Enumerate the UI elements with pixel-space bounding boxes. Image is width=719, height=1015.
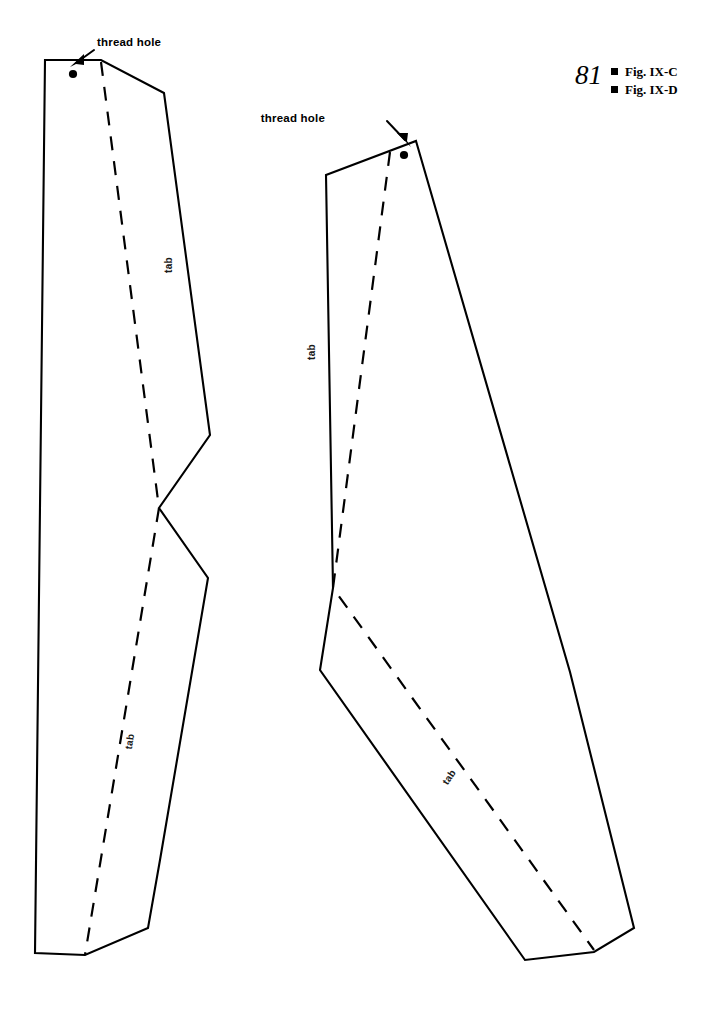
tab-label: tab: [163, 257, 174, 273]
figure-legend: 81 Fig. IX-C Fig. IX-D: [575, 60, 678, 96]
square-bullet-icon: [611, 68, 618, 75]
legend-item-label: Fig. IX-C: [625, 65, 678, 78]
callout-thread-hole-left: thread hole: [70, 36, 161, 67]
pattern-piece-fig-ix-d[interactable]: tab tab: [306, 141, 634, 960]
page-number: 81: [575, 60, 602, 89]
callout-thread-hole-right: thread hole: [261, 112, 411, 147]
pattern-piece-fig-ix-c[interactable]: tab tab: [35, 60, 210, 955]
callout-label: thread hole: [97, 36, 161, 48]
cut-outline-fig-ix-d: [320, 141, 634, 960]
thread-hole-marker-fig-ix-c: [69, 70, 77, 78]
tab-label: tab: [306, 344, 317, 360]
tab-label: tab: [123, 733, 136, 750]
callout-label: thread hole: [261, 112, 325, 124]
fold-line-fig-ix-c: [85, 62, 159, 955]
pattern-sheet: tab tab tab tab thread hole thread hole …: [0, 0, 719, 1015]
legend-item-list: Fig. IX-C Fig. IX-D: [611, 60, 678, 96]
thread-hole-marker-fig-ix-d: [400, 151, 408, 159]
tab-label: tab: [440, 767, 458, 786]
square-bullet-icon: [611, 86, 618, 93]
fold-line-fig-ix-d: [333, 152, 594, 950]
legend-item-fig-ix-c[interactable]: Fig. IX-C: [611, 65, 678, 78]
legend-item-fig-ix-d[interactable]: Fig. IX-D: [611, 83, 678, 96]
cut-outline-fig-ix-c: [35, 60, 210, 955]
pattern-drawing-canvas: tab tab tab tab thread hole thread hole: [0, 0, 719, 1015]
legend-item-label: Fig. IX-D: [625, 83, 678, 96]
